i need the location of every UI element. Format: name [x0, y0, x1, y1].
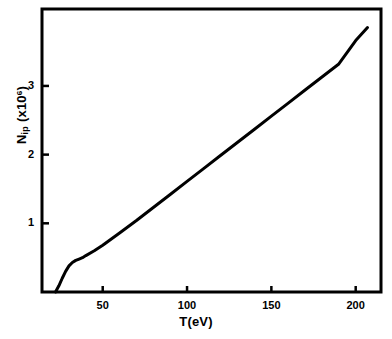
x-axis-title: T(eV) — [0, 314, 392, 329]
x-axis-tick-label: 50 — [78, 300, 128, 311]
plot-border — [42, 9, 381, 292]
data-line-N_ip — [55, 28, 367, 292]
y-axis-title-wrapper: Nip(x106) — [12, 40, 34, 190]
x-axis-tick-label: 100 — [162, 300, 212, 311]
y-axis-title-scale-open: (x10 — [14, 95, 29, 122]
y-axis-title-scale-close: ) — [14, 86, 29, 91]
y-axis-title-exponent: 6 — [15, 91, 24, 96]
x-axis-tick-label: 150 — [246, 300, 296, 311]
y-axis-tick-label: 1 — [2, 217, 34, 228]
x-axis-tick-label: 200 — [331, 300, 381, 311]
y-axis-title: Nip(x106) — [14, 86, 29, 144]
chart-plot-area — [0, 0, 392, 339]
y-axis-title-subscript: ip — [20, 126, 30, 134]
figure-container: 50100150200123 Nip(x106) T(eV) — [0, 0, 392, 339]
y-axis-title-base: N — [14, 134, 29, 144]
axis-frame — [42, 9, 381, 292]
data-series-group — [55, 28, 367, 292]
